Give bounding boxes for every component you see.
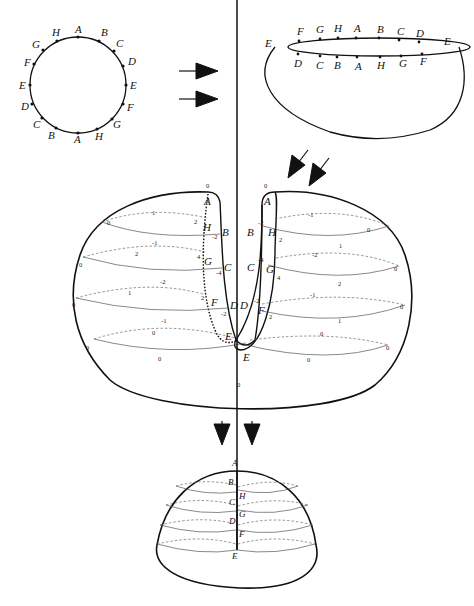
bowl-front-F: F (419, 55, 427, 67)
circle-label-E-left: E (18, 79, 26, 91)
num-right-r4-back: 0 (320, 330, 323, 337)
bowl-front-C: C (316, 59, 324, 71)
hemisphere-F: F (238, 529, 245, 539)
circle-label-A-top: A (74, 23, 82, 35)
circle-label-D-left: D (20, 100, 29, 112)
num-left-r2-slit: 4 (197, 253, 201, 260)
circle-label-H-bottom: H (94, 130, 104, 142)
num-left-r3-edge: 0 (72, 301, 75, 308)
circle-label-D-right: D (127, 55, 136, 67)
bowl-back-G: G (316, 23, 324, 35)
num-top-left-0: 0 (206, 182, 209, 189)
num-right-r2-slot: -4 (258, 256, 264, 263)
num-right-r4-edge: 0 (386, 344, 389, 351)
num-right-r3-front: 1 (338, 317, 341, 324)
num-left-r4-front: 0 (158, 355, 161, 362)
surface-right-C: C (247, 261, 255, 273)
circle-label-C-right: C (116, 37, 124, 49)
num-right-r1-slot: -2 (258, 219, 263, 226)
hemisphere-G: G (239, 509, 246, 519)
surface-left-H: H (202, 221, 212, 233)
surface-right-A: A (263, 195, 271, 207)
num-right-r2-back: -2 (312, 251, 317, 258)
hemisphere-C: C (229, 497, 236, 507)
bowl-front-H: H (376, 59, 386, 71)
surface-left-A: A (203, 195, 211, 207)
num-right-r3-slot: -2 (254, 297, 259, 304)
surface-right-G: G (266, 263, 274, 275)
stage4-hemisphere: A B C D H G F E (157, 0, 317, 588)
bowl-front-A: A (354, 60, 362, 72)
surface-left-E: E (224, 330, 232, 342)
hemisphere-E: E (231, 551, 238, 561)
num-left-r1-slot: -2 (212, 233, 217, 240)
num-left-r3-slit: 2 (201, 294, 204, 301)
bowl-label-E-right: E (443, 35, 451, 47)
circle-label-E-right: E (129, 79, 137, 91)
num-right-r4-front: 0 (307, 356, 310, 363)
bowl-back-A: A (353, 22, 361, 34)
num-left-r3-slot: -2 (221, 310, 226, 317)
num-right-r2-edge: 0 (394, 265, 397, 272)
hemisphere-B: B (228, 477, 234, 487)
num-right-r1-front: 1 (339, 242, 342, 249)
num-left-r2-edge: 0 (79, 261, 82, 268)
bowl-back-C: C (397, 25, 405, 37)
num-right-r2-slit: 4 (277, 274, 281, 281)
surface-right-F: F (257, 304, 265, 316)
num-left-r1-edge: 0 (107, 219, 110, 226)
circle-label-F-left: F (23, 56, 31, 68)
num-right-r2-front: 2 (338, 280, 341, 287)
hemisphere-H: H (238, 491, 246, 501)
num-left-r1-back: 1 (152, 209, 155, 216)
hemisphere-D: D (228, 516, 236, 526)
num-right-r3-edge: 0 (400, 303, 403, 310)
num-left-r3-back: 1 (128, 289, 131, 296)
surface-left-F: F (210, 296, 218, 308)
num-left-r4-edge: 0 (86, 344, 89, 351)
surface-left-G: G (204, 255, 212, 267)
circle-label-A-bottom: A (73, 133, 81, 145)
num-left-r4-back: 0 (152, 329, 155, 336)
surface-right-B: B (247, 226, 254, 238)
down-left-arrow-icon (288, 150, 329, 186)
num-right-r1-slit: 2 (279, 236, 282, 243)
circle-label-B-bottom: B (48, 129, 55, 141)
circle-label-G-right: G (113, 118, 121, 130)
hemisphere-A: A (231, 458, 238, 468)
stage3-surface: A H G F E B C D A B C D E H G F 0 0 1 -1… (72, 182, 412, 409)
surface-right-D: D (239, 299, 248, 311)
surface-right-H: H (267, 226, 277, 238)
num-left-r3-front: -1 (161, 317, 166, 324)
bowl-back-D: D (415, 27, 424, 39)
bowl-back-F: F (296, 25, 304, 37)
circle-label-G-left: G (32, 38, 40, 50)
bowl-front-B: B (334, 59, 341, 71)
num-top-right-0: 0 (264, 182, 267, 189)
diagram-canvas: A B H C D E F G H A B C D E F G E (0, 0, 474, 606)
surface-right-E: E (242, 351, 250, 363)
stage1-circle: A B H C D E F G H A B C D E F G (18, 23, 137, 145)
bowl-label-E-left: E (264, 37, 272, 49)
circle-label-F-right: F (126, 101, 134, 113)
bowl-front-D: D (293, 57, 302, 69)
num-left-r1-slit: 2 (194, 218, 197, 225)
num-left-r2-front: -2 (160, 278, 165, 285)
bowl-front-G: G (399, 57, 407, 69)
stage2-bowl: E E F G H A B C D D C B A H G F (264, 22, 470, 139)
circle-label-B-top: B (101, 26, 108, 38)
num-right-r3-back: -1 (310, 291, 315, 298)
circle-label-H-top: H (51, 26, 61, 38)
right-arrow-icon (179, 63, 218, 107)
bowl-back-H: H (333, 22, 343, 34)
num-left-r2-slot: -4 (216, 269, 222, 276)
surface-slot-B-left: B (222, 226, 229, 238)
num-right-r1-edge: 0 (367, 226, 370, 233)
surface-slot-C-left: C (224, 261, 232, 273)
num-left-r2-back: 2 (135, 250, 138, 257)
num-right-r1-back: -1 (308, 211, 313, 218)
bowl-back-B: B (377, 23, 384, 35)
num-left-r1-front: -1 (152, 239, 157, 246)
num-right-r3-slit: 2 (269, 313, 272, 320)
circle-label-C-left: C (33, 118, 41, 130)
